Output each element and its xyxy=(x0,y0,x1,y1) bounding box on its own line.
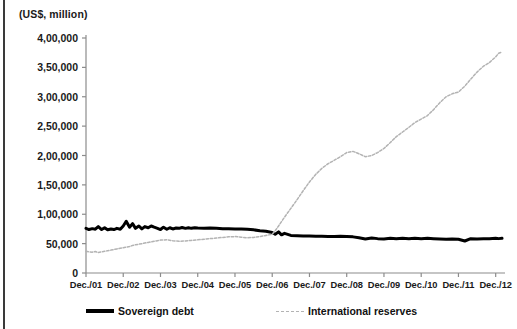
x-axis-tick-label: Dec./07 xyxy=(293,280,326,290)
chart-legend: Sovereign debt International reserves xyxy=(0,300,517,324)
x-axis-tick-label: Dec./08 xyxy=(330,280,363,290)
series-line-sovereign-debt xyxy=(86,221,502,241)
y-axis-tick-label: 3,50,000 xyxy=(16,61,78,73)
x-axis-tick-label: Dec./01 xyxy=(70,280,103,290)
y-axis-tick-label: 2,50,000 xyxy=(16,120,78,132)
x-axis-tick-label: Dec./02 xyxy=(107,280,140,290)
x-axis-tick-label: Dec./11 xyxy=(442,280,474,290)
legend-swatch-dashed-icon xyxy=(276,311,304,312)
legend-item-sovereign-debt: Sovereign debt xyxy=(86,302,194,320)
legend-label-international-reserves: International reserves xyxy=(308,305,417,317)
y-axis-tick-label: 3,00,000 xyxy=(16,91,78,103)
x-axis-tick-label: Dec./12 xyxy=(479,280,512,290)
y-axis-tick-label: 1,00,000 xyxy=(16,208,78,220)
x-axis-tick-label: Dec./10 xyxy=(405,280,438,290)
y-axis-tick-label: 4,00,000 xyxy=(16,32,78,44)
y-axis-tick-label: 50,000 xyxy=(16,238,78,250)
x-axis-tick-label: Dec./09 xyxy=(368,280,401,290)
x-axis-tick-label: Dec./04 xyxy=(181,280,214,290)
chart-figure: (US$, million) 050,0001,00,0001,50,0002,… xyxy=(0,0,517,329)
plot-area: 050,0001,00,0001,50,0002,00,0002,50,0003… xyxy=(0,0,517,329)
x-axis-tick-label: Dec./06 xyxy=(256,280,289,290)
series-line-international-reserves xyxy=(86,52,502,252)
y-axis-tick-label: 1,50,000 xyxy=(16,179,78,191)
y-axis-tick-label: 2,00,000 xyxy=(16,150,78,162)
legend-label-sovereign-debt: Sovereign debt xyxy=(118,305,194,317)
legend-swatch-solid-icon xyxy=(86,309,114,312)
x-axis-tick-label: Dec./05 xyxy=(219,280,252,290)
x-axis-tick-label: Dec./03 xyxy=(144,280,177,290)
y-axis-tick-label: 0 xyxy=(16,267,78,279)
legend-item-international-reserves: International reserves xyxy=(276,302,417,320)
